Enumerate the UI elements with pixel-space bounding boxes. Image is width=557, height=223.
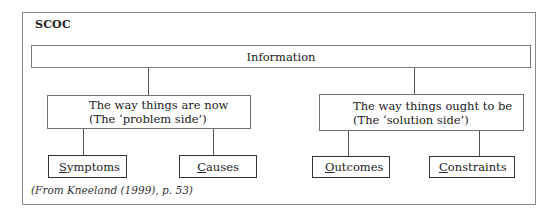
outcomes-rest: utcomes <box>334 160 383 174</box>
symptoms-rest: ymptoms <box>67 160 120 174</box>
symptoms-initial: S <box>59 160 67 174</box>
connector-outcomes <box>348 131 349 156</box>
constraints-initial: C <box>439 160 448 174</box>
causes-rest: auses <box>206 160 239 174</box>
connector-symptoms <box>83 129 84 155</box>
connector-causes <box>213 129 214 155</box>
causes-node: Causes <box>179 155 257 178</box>
connector-constraints <box>479 131 480 156</box>
solution-side-line1: The way things ought to be <box>353 99 523 113</box>
problem-side-node: The way things are now (The ‘problem sid… <box>47 95 251 129</box>
solution-side-line2: (The ‘solution side’) <box>353 113 523 127</box>
constraints-rest: onstraints <box>448 160 507 174</box>
diagram-title: SCOC <box>35 18 71 31</box>
source-caption: (From Kneeland (1999), p. 53) <box>31 184 193 196</box>
causes-initial: C <box>197 160 206 174</box>
connector-root-right <box>414 68 415 94</box>
problem-side-line2: (The ‘problem side’) <box>89 112 250 126</box>
information-node: Information <box>31 45 531 68</box>
connector-root-left <box>148 68 149 95</box>
problem-side-line1: The way things are now <box>89 98 250 112</box>
symptoms-node: Symptoms <box>48 155 127 178</box>
information-label: Information <box>246 50 315 64</box>
outcomes-initial: O <box>325 160 334 174</box>
constraints-node: Constraints <box>429 156 515 178</box>
outcomes-node: Outcomes <box>312 156 390 178</box>
solution-side-node: The way things ought to be (The ‘solutio… <box>319 94 524 131</box>
